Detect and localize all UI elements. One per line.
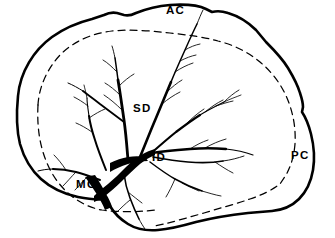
label-pc: PC xyxy=(291,150,310,162)
label-ac: AC xyxy=(166,5,185,17)
figure-canvas xyxy=(0,0,335,238)
brain-vasculature-figure: AC SD ID MC PC xyxy=(0,0,335,238)
label-sd: SD xyxy=(133,103,152,115)
label-mc: MC xyxy=(76,179,97,191)
cerebral-hemisphere-outline xyxy=(17,5,314,231)
label-id: ID xyxy=(152,152,166,164)
